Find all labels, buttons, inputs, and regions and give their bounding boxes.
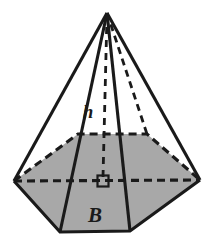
base-hidden-diagonal bbox=[14, 180, 200, 181]
pyramid-diagram: h B bbox=[0, 0, 218, 251]
base-label: B bbox=[87, 203, 102, 227]
pyramid-figure: h B bbox=[0, 0, 218, 251]
height-label: h bbox=[83, 101, 94, 122]
